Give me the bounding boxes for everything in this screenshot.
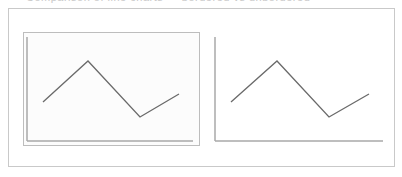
right-chart: [215, 37, 383, 141]
left-data-line: [43, 61, 179, 117]
charts-canvas: [0, 0, 402, 177]
right-data-line: [231, 61, 369, 117]
left-chart: [27, 37, 193, 141]
